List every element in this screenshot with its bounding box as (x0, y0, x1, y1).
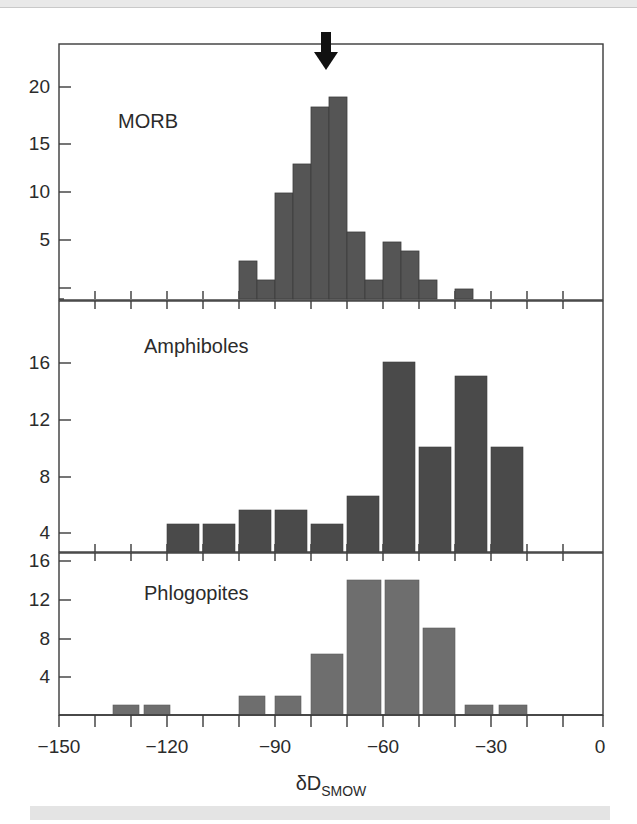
panel-phlogopites: 16 12 8 4 (29, 550, 603, 715)
bar-morb-4 (293, 164, 311, 299)
bar-amphiboles-2 (203, 524, 235, 552)
panel-phlogopites-ytick-label-16: 16 (29, 550, 50, 571)
bar-phlogopites-6 (347, 580, 381, 715)
bar-phlogopites-10 (499, 705, 527, 715)
panel-morb: 20 15 10 5 (29, 32, 603, 300)
bar-morb-11 (419, 280, 437, 299)
bar-phlogopites-1 (113, 705, 139, 715)
panel-phlogopites-xticks-top (95, 553, 563, 561)
bar-morb-8 (365, 280, 383, 299)
panel-amphiboles-ytick-label-12: 12 (29, 409, 50, 430)
panel-phlogopites-title: Phlogopites (144, 582, 249, 604)
x-axis-title-subscript: SMOW (321, 783, 367, 799)
bar-morb-1 (239, 261, 257, 299)
x-axis-tick-label-neg30: −30 (475, 736, 507, 757)
bar-morb-9 (383, 242, 401, 299)
bar-phlogopites-7 (385, 580, 419, 715)
panel-morb-bars (239, 97, 473, 299)
bar-amphiboles-3 (239, 510, 271, 552)
bar-morb-5 (311, 107, 329, 299)
down-arrow-icon (314, 32, 338, 70)
panel-amphiboles-bars (167, 362, 523, 552)
bar-phlogopites-9 (465, 705, 493, 715)
x-axis-tick-label-neg120: −120 (146, 736, 189, 757)
panel-amphiboles-ytick-label-8: 8 (39, 466, 50, 487)
panel-morb-yticks (59, 87, 71, 299)
figure-root: 20 15 10 5 (0, 0, 637, 824)
bar-morb-3 (275, 193, 293, 299)
x-axis-title: δDSMOW (296, 772, 367, 799)
panel-morb-ytick-label-10: 10 (29, 181, 50, 202)
panel-amphiboles-title: Amphiboles (144, 335, 249, 357)
x-axis-ticks (95, 715, 563, 727)
panel-phlogopites-ytick-label-4: 4 (39, 666, 50, 687)
bar-phlogopites-5 (311, 654, 343, 715)
panel-amphiboles: 16 12 8 4 (29, 301, 603, 552)
x-axis-tick-label-neg150: −150 (38, 736, 81, 757)
histogram-figure: 20 15 10 5 (0, 0, 637, 824)
panel-amphiboles-yticks (59, 363, 71, 533)
panel-morb-ytick-label-5: 5 (39, 229, 50, 250)
panel-phlogopites-ytick-label-8: 8 (39, 628, 50, 649)
bar-morb-7 (347, 232, 365, 299)
bar-amphiboles-5 (311, 524, 343, 552)
x-axis-tick-label-0: 0 (595, 736, 606, 757)
bar-phlogopites-3 (239, 696, 265, 715)
x-axis: −150 −120 −90 −60 −30 0 δDSMOW (38, 715, 606, 799)
bar-amphiboles-9 (455, 376, 487, 552)
panel-morb-ytick-label-20: 20 (29, 76, 50, 97)
bar-amphiboles-8 (419, 447, 451, 552)
bar-amphiboles-4 (275, 510, 307, 552)
panel-phlogopites-ytick-label-12: 12 (29, 589, 50, 610)
bar-morb-2 (257, 280, 275, 299)
x-axis-tick-label-neg60: −60 (367, 736, 399, 757)
panel-morb-title: MORB (118, 110, 178, 132)
x-axis-title-main: δD (296, 772, 322, 794)
bar-phlogopites-2 (144, 705, 170, 715)
panel-phlogopites-yticks (59, 561, 71, 677)
bar-amphiboles-1 (167, 524, 199, 552)
bar-morb-6 (329, 97, 347, 299)
bar-amphiboles-10 (491, 447, 523, 552)
bar-morb-12 (455, 289, 473, 299)
panel-amphiboles-ytick-label-4: 4 (39, 522, 50, 543)
x-axis-tick-label-neg90: −90 (259, 736, 291, 757)
panel-amphiboles-ytick-label-16: 16 (29, 352, 50, 373)
panel-amphiboles-xticks-top (95, 301, 563, 309)
bar-phlogopites-8 (423, 628, 455, 715)
bar-phlogopites-4 (275, 696, 301, 715)
bar-amphiboles-6 (347, 496, 379, 552)
bar-morb-10 (401, 251, 419, 299)
bar-amphiboles-7 (383, 362, 415, 552)
panel-morb-ytick-label-15: 15 (29, 133, 50, 154)
